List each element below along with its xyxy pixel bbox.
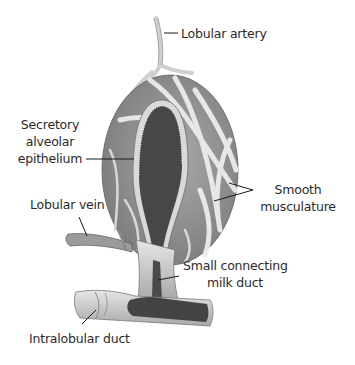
leader-lobular-vein — [79, 217, 87, 236]
label-secretory-line2: alveolar — [14, 133, 86, 150]
label-connecting-duct: Small connecting milk duct — [183, 257, 287, 291]
label-lobular-vein: Lobular vein — [30, 196, 105, 213]
label-secretory-line3: epithelium — [14, 150, 86, 167]
label-secretory-line1: Secretory — [14, 116, 86, 133]
connecting-duct-vessel — [136, 240, 178, 300]
label-intralobular-duct: Intralobular duct — [29, 330, 130, 347]
label-lobular-artery: Lobular artery — [181, 25, 267, 42]
label-connecting-line2: milk duct — [183, 274, 287, 291]
label-secretory-epithelium: Secretory alveolar epithelium — [14, 116, 86, 167]
label-smooth-line1: Smooth — [258, 181, 338, 198]
label-connecting-line1: Small connecting — [183, 257, 287, 274]
label-smooth-musculature: Smooth musculature — [258, 181, 338, 215]
label-smooth-line2: musculature — [258, 198, 338, 215]
